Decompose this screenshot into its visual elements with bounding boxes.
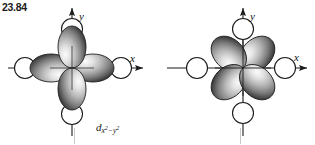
node-circle-neg-x <box>187 58 208 79</box>
orbital-diagram-dx2y2: x y dx2−y2 <box>0 0 157 145</box>
orbital-label-sup-2b: 2 <box>116 125 119 131</box>
axis-y-label: y <box>78 10 84 22</box>
figure-container: 23.84 <box>0 0 315 145</box>
node-circle-neg-y <box>233 103 254 124</box>
panel-divider <box>74 128 75 144</box>
node-circle-pos-x <box>275 58 296 79</box>
panel-divider <box>240 128 241 144</box>
axis-x-label: x <box>293 51 299 63</box>
axis-x-label: x <box>129 52 135 64</box>
axis-y-label: y <box>249 10 255 22</box>
problem-number: 23.84 <box>2 1 27 13</box>
orbital-diagram-dxy: x y dxy <box>157 0 314 145</box>
axis-overlay <box>50 46 94 90</box>
orbital-label-dx2y2: dx2−y2 <box>96 121 119 135</box>
